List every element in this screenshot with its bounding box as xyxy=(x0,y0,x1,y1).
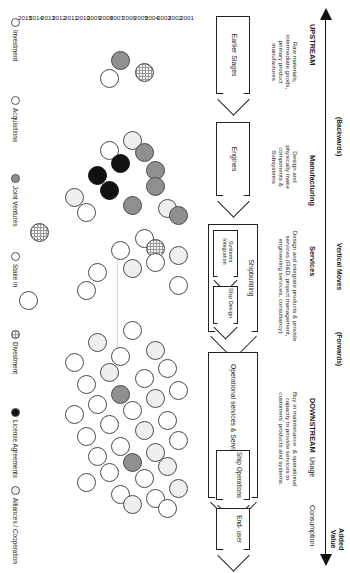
bubble-light-2003[interactable] xyxy=(146,341,165,360)
legend-item-license-agreements[interactable]: License Agreements xyxy=(11,408,20,478)
legend-label-alliances-cooperation: Alliances / Cooperation xyxy=(12,498,19,564)
description-services: Design and integrate products & provide … xyxy=(277,210,298,362)
axis-label-backwards: (Backwards) xyxy=(336,117,343,156)
axis-label-forwards: (Forwards) xyxy=(336,332,343,366)
value-chain-axis-line xyxy=(325,20,326,554)
bubble-white-2010[interactable] xyxy=(65,405,84,424)
legend-label-joint-ventures: Joint Ventures xyxy=(12,186,19,227)
bubble-gray-2006[interactable] xyxy=(112,51,131,70)
chain-box-end-user-label: End- user xyxy=(236,508,243,550)
description-downstream: Buy in maintenance & operational capacit… xyxy=(277,368,298,510)
legend-swatch-divestment-icon xyxy=(11,330,20,339)
bubble-white-2014[interactable] xyxy=(19,291,38,310)
axis-label-downstream: DOWNSTREAM xyxy=(308,398,316,453)
legend-label-divestment: Divestment xyxy=(12,342,19,374)
bubble-gray-2004[interactable] xyxy=(135,143,154,162)
bubble-white-2009[interactable] xyxy=(77,473,96,492)
rotated-diagram-frame: UPSTREAM (Backwards) Manufacturing Servi… xyxy=(0,0,350,573)
bubble-light-2005[interactable] xyxy=(123,259,142,278)
axis-arrow-left-icon xyxy=(321,8,333,20)
bubble-white-2009[interactable] xyxy=(77,427,96,446)
stage-header-consumption: Consumption xyxy=(308,505,316,546)
bubble-white-2005[interactable] xyxy=(123,321,142,340)
bubble-black-2006[interactable] xyxy=(112,154,131,173)
legend-label-investment: Investment xyxy=(12,30,19,61)
bubble-white-2007[interactable] xyxy=(100,463,119,482)
bubble-gray-2001[interactable] xyxy=(170,206,189,225)
legend-swatch-investment-icon xyxy=(11,18,20,27)
bubble-white-2009[interactable] xyxy=(77,203,96,222)
stage-header-usage: Usage xyxy=(308,457,316,477)
axis-label-vertical-moves: Vertical Moves xyxy=(335,243,343,290)
legend-item-acquisitions[interactable]: Acquisitions xyxy=(11,96,20,142)
description-upstream: Raw materials, intermediate goods, prima… xyxy=(270,16,298,108)
legend-swatch-stake-in-icon xyxy=(11,252,20,261)
bubble-white-2002[interactable] xyxy=(158,359,177,378)
legend-item-stake-in[interactable]: Stake in xyxy=(11,252,20,287)
bubble-white-2006[interactable] xyxy=(112,241,131,260)
stage-header-services: Services xyxy=(308,246,316,276)
legend-item-divestment[interactable]: Divestment xyxy=(11,330,20,374)
bubble-white-2001[interactable] xyxy=(170,276,189,295)
chain-box-ship-design-label: Ship Design xyxy=(228,284,234,322)
bubble-white-2002[interactable] xyxy=(158,411,177,430)
bubble-white-2006[interactable] xyxy=(112,347,131,366)
bubble-gray-2005[interactable] xyxy=(123,453,142,472)
bubble-white-2004[interactable] xyxy=(135,469,154,488)
legend-swatch-acquisitions-icon xyxy=(11,96,20,105)
bubble-white-2009[interactable] xyxy=(77,375,96,394)
stage-header-manufacturing: Manufacturing xyxy=(308,155,316,206)
bubble-gray-2005[interactable] xyxy=(123,196,142,215)
plot-faint-divider xyxy=(117,250,118,360)
chain-box-engines-label: Engines xyxy=(231,122,238,196)
diagram-canvas: UPSTREAM (Backwards) Manufacturing Servi… xyxy=(0,0,350,573)
legend-label-stake-in: Stake in xyxy=(12,264,19,287)
description-manufacturing: Design and physically make components & … xyxy=(270,128,298,206)
bubble-light-2003[interactable] xyxy=(146,389,165,408)
bubble-white-2009[interactable] xyxy=(77,281,96,300)
bubble-light-2001[interactable] xyxy=(170,479,189,498)
bubble-white-2001[interactable] xyxy=(170,381,189,400)
bubble-black-2007[interactable] xyxy=(100,181,119,200)
bubble-white-2008[interactable] xyxy=(88,447,107,466)
bubble-white-2001[interactable] xyxy=(170,431,189,450)
bubble-white-2008[interactable] xyxy=(88,263,107,282)
bubble-white-2007[interactable] xyxy=(100,69,119,88)
bubble-light-2007[interactable] xyxy=(100,363,119,382)
bubble-hatch-2013[interactable] xyxy=(30,223,49,242)
bubble-light-2002[interactable] xyxy=(158,457,177,476)
bubble-white-2003[interactable] xyxy=(146,253,165,272)
bubble-white-2002[interactable] xyxy=(158,499,177,518)
legend-label-acquisitions: Acquisitions xyxy=(12,108,19,142)
bubble-white-2005[interactable] xyxy=(123,401,142,420)
bubble-white-2004[interactable] xyxy=(135,369,154,388)
chain-box-systems-integration-label: Systems Integration xyxy=(222,228,234,275)
bubble-light-2005[interactable] xyxy=(123,495,142,514)
bubble-white-2010[interactable] xyxy=(65,353,84,372)
bubble-gray-2006[interactable] xyxy=(112,385,131,404)
legend-item-alliances-cooperation[interactable]: Alliances / Cooperation xyxy=(11,486,20,564)
bubble-gray-2003[interactable] xyxy=(146,177,165,196)
bubble-light-2004[interactable] xyxy=(135,421,154,440)
bubble-light-2008[interactable] xyxy=(88,333,107,352)
bubble-white-2006[interactable] xyxy=(112,437,131,456)
bubble-light-2001[interactable] xyxy=(170,246,189,265)
bubble-hatch-2004[interactable] xyxy=(135,63,154,82)
chain-box-ship-operations-label: Ship Operations xyxy=(236,450,243,500)
legend-label-license-agreements: License Agreements xyxy=(12,420,19,478)
chain-box-shipbuilding-label: Shipbuilding xyxy=(248,224,255,332)
legend-swatch-license-agreements-icon xyxy=(11,408,20,417)
bubble-white-2007[interactable] xyxy=(100,415,119,434)
axis-label-upstream: UPSTREAM xyxy=(308,24,316,65)
legend-item-investment[interactable]: Investment xyxy=(11,18,20,61)
axis-arrow-right-icon xyxy=(321,554,333,566)
legend-swatch-joint-ventures-icon xyxy=(11,174,20,183)
legend-item-joint-ventures[interactable]: Joint Ventures xyxy=(11,174,20,227)
chain-box-earlier-stages-label: Earlier Stages xyxy=(231,16,238,94)
axis-label-added-value: Added Value xyxy=(329,528,345,550)
bubble-white-2008[interactable] xyxy=(88,395,107,414)
legend-swatch-alliances-cooperation-icon xyxy=(11,486,20,495)
